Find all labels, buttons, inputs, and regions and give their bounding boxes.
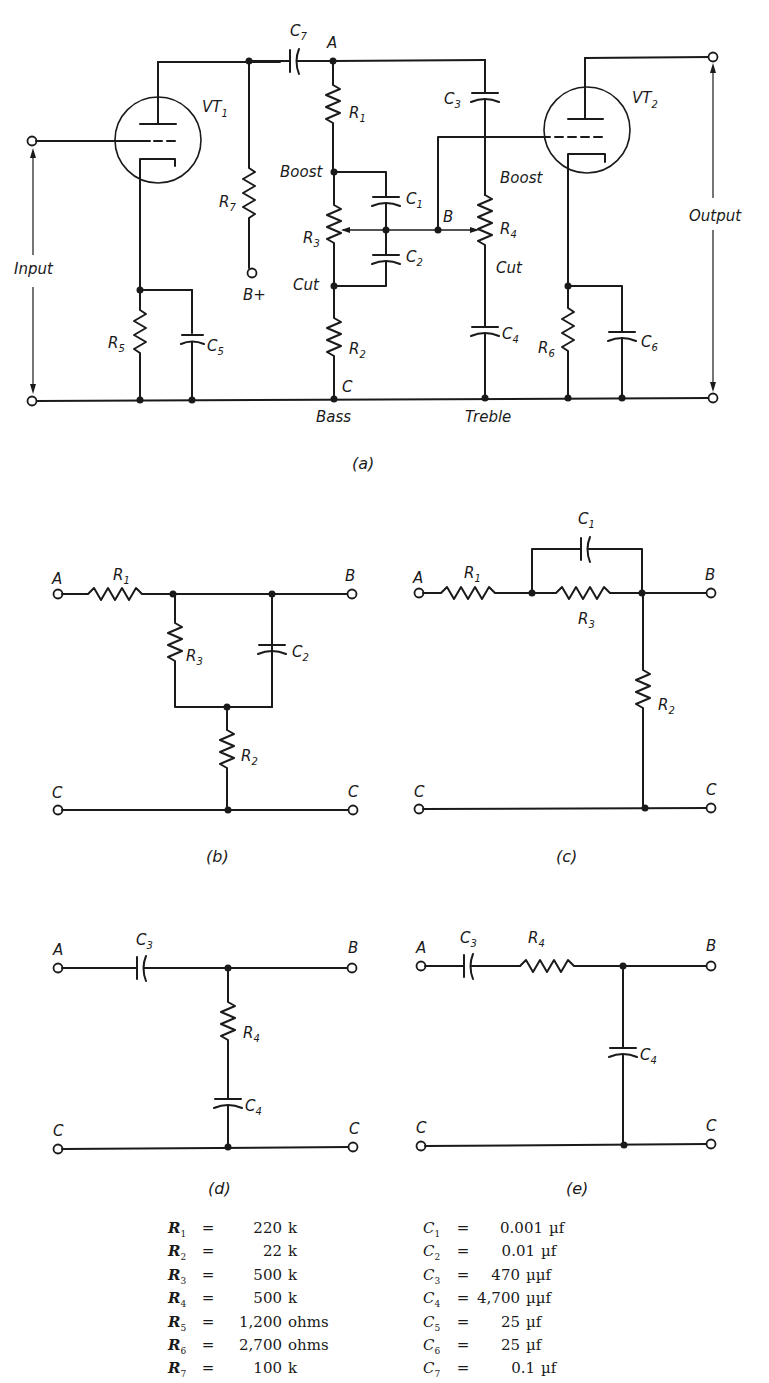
r5-resistor [134, 290, 146, 400]
r3-label: R3 [303, 229, 320, 249]
table-row: R6=2,700ohms [168, 1337, 329, 1360]
svg-text:A: A [52, 941, 63, 959]
svg-text:C: C [706, 781, 717, 799]
caption-b: (b) [206, 847, 229, 866]
c7-label: C7 [290, 22, 307, 42]
table-row: C1=0.001µf [423, 1220, 564, 1243]
r1-label: R1 [349, 104, 366, 124]
treble-label: Treble [465, 408, 511, 426]
svg-text:C: C [53, 1122, 64, 1140]
caption-c: (c) [556, 847, 577, 866]
svg-text:A: A [51, 570, 62, 588]
svg-text:C: C [706, 1117, 717, 1135]
input-terminal-bottom [28, 397, 37, 406]
b-r2-label: R2 [241, 747, 258, 767]
c4-label: C4 [502, 325, 519, 345]
caption-e: (e) [566, 1179, 588, 1198]
bass-cut-label: Cut [293, 276, 320, 294]
table-row: C7=0.1µf [423, 1360, 564, 1383]
table-row: R5=1,200ohms [168, 1314, 329, 1337]
c3-label: C3 [444, 90, 461, 110]
circuit-d: A C3 B R4 C4 C C (d) [52, 931, 360, 1198]
r7-label: R7 [219, 193, 236, 213]
svg-text:B: B [705, 566, 715, 584]
r2-label: R2 [349, 340, 366, 360]
table-row: C6=25µf [423, 1337, 564, 1360]
c2-label: C2 [406, 248, 423, 268]
circuit-e: A C3 R4 B C4 C C (e) [415, 929, 717, 1198]
caption-a: (a) [352, 454, 374, 473]
c-r1-label: R1 [464, 564, 481, 584]
resistor-values-table: R1=220k R2=22k R3=500k R4=500k R5=1,200o… [168, 1220, 329, 1383]
bass-boost-label: Boost [280, 163, 323, 181]
svg-text:C: C [349, 1120, 360, 1138]
b-c2-label: C2 [292, 643, 309, 663]
vt2-label: VT2 [632, 89, 658, 110]
b-plus-terminal [248, 269, 257, 278]
table-row: R3=500k [168, 1267, 329, 1290]
svg-text:B: B [345, 567, 355, 585]
table-row: C3=470µµf [423, 1267, 564, 1290]
circuit-c: A R1 R3 C1 B R2 C C (c) [412, 510, 717, 866]
vt1-label: VT1 [202, 98, 228, 119]
svg-text:C: C [416, 1119, 427, 1137]
output-terminal-top [709, 53, 718, 62]
table-row: C2=0.01µf [423, 1243, 564, 1266]
svg-text:C: C [52, 784, 63, 802]
r3-potentiometer [327, 172, 341, 286]
table-row: C5=25µf [423, 1314, 564, 1337]
svg-text:A: A [415, 939, 426, 957]
c-c1-label: C1 [578, 510, 595, 530]
svg-text:B: B [348, 939, 358, 957]
b-r1-label: R1 [113, 566, 130, 586]
output-terminal-bottom [709, 394, 718, 403]
circuit-b: A R1 B R3 C2 R2 C C (b) [51, 566, 359, 866]
r7-resistor [243, 61, 255, 268]
c5-label: C5 [207, 337, 224, 357]
svg-text:C: C [414, 783, 425, 801]
schematic-canvas: Input VT1 C5 R5 R7 B+ [0, 0, 769, 1383]
treble-boost-label: Boost [500, 169, 543, 187]
r5-label: R5 [108, 334, 125, 354]
e-c4-label: C4 [640, 1046, 657, 1066]
node-c-label: C [342, 378, 353, 396]
vacuum-tube-1: VT1 [115, 62, 280, 290]
table-row: R2=22k [168, 1243, 329, 1266]
b-plus-label: B+ [243, 286, 266, 304]
e-c3-label: C3 [460, 929, 477, 949]
r4-label: R4 [500, 220, 517, 240]
r6-resistor [562, 286, 574, 398]
bass-label: Bass [316, 408, 351, 426]
table-row: R4=500k [168, 1290, 329, 1313]
circuit-a: Input VT1 C5 R5 R7 B+ [14, 22, 742, 473]
b-r3-label: R3 [186, 647, 203, 667]
node-a-label: A [326, 34, 337, 52]
input-label: Input [14, 260, 54, 278]
table-row: R7=100k [168, 1360, 329, 1383]
r6-label: R6 [538, 339, 555, 359]
c-r3-label: R3 [578, 610, 595, 630]
svg-text:B: B [706, 937, 716, 955]
vacuum-tube-2: VT2 [542, 57, 710, 286]
c6-label: C6 [641, 333, 658, 353]
d-c3-label: C3 [136, 931, 153, 951]
d-c4-label: C4 [245, 1097, 262, 1117]
e-r4-label: R4 [528, 929, 545, 949]
d-r4-label: R4 [243, 1024, 260, 1044]
svg-text:C: C [348, 783, 359, 801]
node-b-label: B [443, 208, 453, 226]
r4-potentiometer [478, 195, 492, 326]
r1-resistor [326, 61, 340, 172]
c-r2-label: R2 [658, 696, 675, 716]
r2-resistor [327, 286, 341, 399]
output-label: Output [689, 207, 742, 225]
treble-cut-label: Cut [496, 259, 523, 277]
c1-label: C1 [406, 190, 423, 210]
caption-d: (d) [208, 1179, 231, 1198]
capacitor-values-table: C1=0.001µf C2=0.01µf C3=470µµf C4=4,700µ… [423, 1220, 564, 1383]
table-row: C4=4,700µµf [423, 1290, 564, 1313]
table-row: R1=220k [168, 1220, 329, 1243]
svg-text:A: A [412, 569, 423, 587]
